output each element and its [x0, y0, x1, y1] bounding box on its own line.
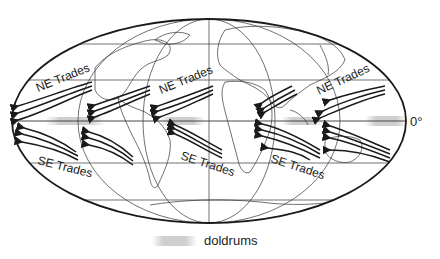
label-ne-trades-3: NE Trades — [314, 61, 371, 98]
graticule — [0, 19, 440, 223]
legend: doldrums — [152, 233, 257, 248]
world-map: NE Trades NE Trades NE Trades SE Trades … — [0, 0, 440, 259]
doldrums-swatch — [152, 236, 197, 246]
equator-label: 0° — [410, 114, 422, 129]
label-se-trades-2: SE Trades — [179, 149, 237, 180]
legend-label: doldrums — [204, 233, 257, 248]
label-se-trades-3: SE Trades — [269, 152, 327, 183]
